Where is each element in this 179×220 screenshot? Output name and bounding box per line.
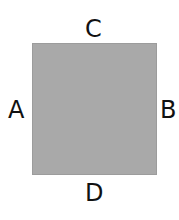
label-bottom: D xyxy=(85,181,103,205)
label-right: B xyxy=(160,98,176,122)
grey-square xyxy=(32,43,157,175)
label-left: A xyxy=(8,98,24,122)
label-top: C xyxy=(85,17,102,41)
